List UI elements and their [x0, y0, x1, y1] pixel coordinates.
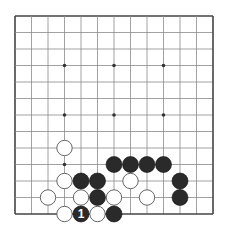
white-stone[interactable] [40, 190, 55, 205]
black-stone[interactable] [156, 157, 172, 173]
star-point [162, 64, 166, 68]
black-stone[interactable] [106, 157, 122, 173]
black-stone[interactable] [172, 173, 188, 189]
white-stone[interactable] [73, 190, 88, 205]
move-number-label: 1 [78, 207, 85, 221]
star-point [63, 163, 67, 167]
star-point [162, 113, 166, 117]
star-point [112, 113, 116, 117]
black-stone[interactable] [139, 157, 155, 173]
white-stone[interactable] [57, 140, 72, 155]
white-stone[interactable] [57, 206, 72, 221]
white-stone[interactable] [90, 206, 105, 221]
white-stone[interactable] [123, 173, 138, 188]
star-point [63, 64, 67, 68]
go-board[interactable]: 1 [0, 0, 229, 232]
black-stone[interactable] [106, 206, 122, 222]
white-stone[interactable] [139, 190, 154, 205]
white-stone[interactable] [57, 173, 72, 188]
star-point [63, 113, 67, 117]
black-stone[interactable]: 1 [73, 206, 89, 222]
star-point [112, 64, 116, 68]
black-stone[interactable] [90, 173, 106, 189]
black-stone[interactable] [123, 157, 139, 173]
black-stone[interactable] [90, 190, 106, 206]
white-stone[interactable] [106, 190, 121, 205]
black-stone[interactable] [172, 190, 188, 206]
black-stone[interactable] [73, 173, 89, 189]
